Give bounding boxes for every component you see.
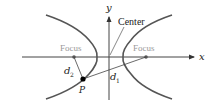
x-axis-label: x [199,51,205,62]
focus-left-label: Focus [60,43,82,53]
d2-label: d 2 [64,65,74,78]
d2-label-sub: 2 [70,71,74,78]
hyperbola-diagram: x y Center Focus Focus P d 2 d 1 [0,0,213,102]
focus-right-label: Focus [133,43,155,53]
center-leader-line [110,27,124,55]
d1-label-sub: 1 [116,77,120,84]
d2-segment [74,57,83,79]
y-axis-label: y [105,2,112,13]
point-p-label: P [78,85,86,95]
center-label: Center [118,16,145,27]
point-p [80,76,85,81]
d1-label: d 1 [110,71,120,84]
